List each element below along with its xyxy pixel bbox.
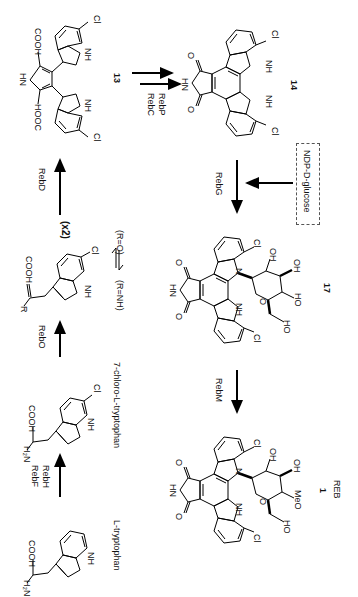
enzyme-rebp: RebP [157,93,167,116]
c13-hooc: HOOC [33,104,43,131]
cosubstrate-label: NDP-D-glucose [302,150,312,213]
compound-1-label: 1 [318,488,328,493]
c17-ho-2: HO [282,320,292,334]
c14-nh-bottom: NH [264,95,274,108]
equilibrium-right: (R=O) [115,230,125,255]
reb-ring-o: O [258,498,268,505]
cltrp-cooh: COOH [27,405,37,432]
reb-name: REB [332,480,342,499]
c14-cl-bottom: Cl [270,127,280,136]
c13-cl-top: Cl [92,15,102,24]
c17-n: N [234,268,244,275]
reb-cl-top: Cl [252,439,262,448]
enzyme-rebm: RebM [214,378,224,402]
enzyme-rebg: RebG [214,172,224,196]
enzyme-rebo: RebO [37,325,47,349]
cltrp-name: 7-chloro-L-tryptophan [112,362,122,448]
reb-meo: MeO [293,490,303,510]
imine-cl: Cl [90,246,100,255]
reb-oh-2: OH [292,459,302,473]
c13-nh-bottom: NH [83,99,93,112]
reb-n: N [234,468,244,475]
multiplier-x2: (x2) [60,221,70,239]
ltrp-h2n: H₂N [22,580,32,597]
imine-nh: NH [83,285,93,298]
c17-ring-o: O [258,298,268,305]
c17-cl-top: Cl [252,239,262,248]
c17-hn: HN [168,284,178,297]
c14-o-bottom: O [186,106,196,113]
enzyme-rebc: RebC [146,93,156,116]
compound-17-label: 17 [322,283,332,293]
enzyme-rebh: RebH [41,465,51,488]
c13-hn: HN [18,73,28,86]
c17-nh: NH [234,303,244,316]
compound-14-label: 14 [289,80,299,90]
reb-cl-bottom: Cl [252,534,262,543]
c13-nh-top: NH [83,48,93,61]
enzyme-rebf: RebF [30,465,40,487]
imine-cooh: COOH [24,256,34,283]
compound-14-structure [192,30,266,136]
c17-o-top: O [174,259,184,266]
ltrp-nh: NH [86,552,96,565]
cltrp-cl: Cl [92,384,102,393]
ltrp-name: L-tryptophan [112,520,122,571]
ltrp-cooh: COOH [27,540,37,567]
cltrp-h2n: H₂N [22,446,32,463]
imine-r: R [19,306,29,313]
enzyme-rebd: RebD [37,168,47,191]
reb-oh-1: OH [268,448,278,462]
c14-nh-top: NH [264,60,274,73]
reb-ho: HO [282,520,292,534]
equilibrium-left: (R=NH) [115,280,125,311]
c17-oh-1: OH [268,248,278,262]
c13-cl-bottom: Cl [92,133,102,142]
reb-nh: NH [234,503,244,516]
c14-hn: HN [180,78,190,91]
cltrp-nh: NH [86,418,96,431]
reb-o-bottom: O [174,513,184,520]
c17-oh-2: OH [292,259,302,273]
reb-hn: HN [168,484,178,497]
c17-cl-bottom: Cl [252,334,262,343]
c14-cl-top: Cl [270,30,280,39]
c17-o-bottom: O [174,313,184,320]
compound-13-label: 13 [112,73,122,83]
c14-o-top: O [186,52,196,59]
reb-o-top: O [174,459,184,466]
c17-ho-1: HO [293,293,303,307]
c13-cooh: COOH [33,28,43,55]
